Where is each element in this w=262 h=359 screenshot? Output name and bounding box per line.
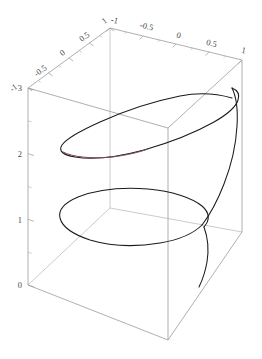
z-axis-tick-label-0: 0 [18,280,22,290]
y-axis-tick-label-4: 1 [240,45,246,56]
z-axis-ticks [28,88,34,287]
y-axis-ticks [107,28,242,64]
x-axis-labels: -1 -0.5 0 0.5 1 [7,15,108,93]
z-tick-minor-1 [28,187,32,188]
x-tick-minor-3 [100,36,103,38]
helix-tail [199,227,208,287]
x-tick-minor-2 [79,51,82,53]
z-tick-minor-0 [28,252,32,253]
z-tick-0 [28,285,34,287]
x-axis-tick-label-3: 0.5 [77,29,91,43]
x-axis-tick-label-1: -0.5 [32,63,49,79]
z-axis-labels: 0 1 2 3 [18,83,22,290]
z-axis-tick-label-2: 2 [18,149,22,159]
y-tick-minor-0 [125,32,127,34]
z-tick-2 [28,154,34,156]
x-tick-2 [69,58,73,61]
x-axis-tick-label-4: 1 [100,15,109,26]
y-tick-4 [239,60,242,64]
z-axis-tick-label-1: 1 [18,215,22,225]
z-tick-minor-2 [28,121,32,122]
y-axis-tick-label-3: 0.5 [205,37,218,49]
helix-tint-segment [63,149,148,158]
y-axis-labels: -1 -0.5 0 0.5 1 [110,14,247,55]
y-axis-tick-label-0: -1 [110,14,119,25]
helix-curve-group [60,88,239,287]
box-edge-back-bottom-left [28,208,110,285]
y-tick-minor-1 [158,40,160,42]
box-edge-back-bottom-right [110,208,242,232]
y-tick-1 [140,36,143,40]
y-axis-tick-label-2: 0 [175,30,181,41]
box-edge-bottom-front-left [28,285,168,340]
x-tick-minor-0 [38,81,41,83]
y-tick-minor-3 [224,56,226,58]
y-tick-2 [173,44,176,48]
x-axis-tick-label-2: 0 [58,47,67,58]
x-tick-3 [90,43,94,46]
y-tick-3 [206,52,209,56]
plot-canvas: -1 -0.5 0 0.5 1 -1 -0.5 0 0.5 1 [0,0,262,359]
z-axis-tick-label-3: 3 [18,83,22,93]
y-tick-minor-2 [191,48,193,50]
x-tick-minor-1 [59,66,62,68]
bounding-box-bottom-face [28,232,242,340]
y-axis-tick-label-1: -0.5 [139,20,154,33]
helix-lower-loop [60,188,209,245]
z-tick-1 [28,219,34,221]
x-tick-1 [49,73,53,76]
x-axis-ticks [28,28,114,91]
box-edge-bottom-front-right [168,232,242,340]
parametric-plot-3d: -1 -0.5 0 0.5 1 -1 -0.5 0 0.5 1 [0,0,262,359]
box-edge-top-front-left [28,88,168,128]
